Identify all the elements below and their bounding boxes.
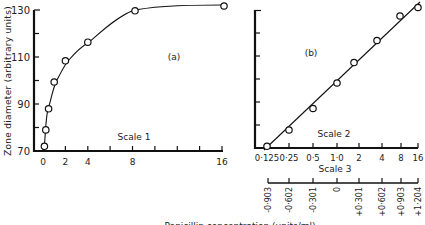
a-x-tick-16: 16 <box>216 157 228 167</box>
a-fit-curve <box>44 5 222 151</box>
b-x-tick-8: 8 <box>398 153 403 163</box>
s3-tick-7: +0·903 <box>397 187 406 217</box>
b-x-tick-05: 0·5 <box>306 153 320 163</box>
scale2-label: Scale 2 <box>318 129 351 139</box>
s3-tick-1: -0·903 <box>264 187 273 213</box>
a-x-tick-0: 0 <box>40 157 46 167</box>
panel-a: 130 110 90 70 0 2 4 8 16 Zone diameter (… <box>3 3 228 167</box>
a-x-tick-8: 8 <box>130 157 136 167</box>
panel-b-label: (b) <box>305 48 318 58</box>
b-x-tick-025: 0·25 <box>280 153 299 163</box>
scale3-label: Scale 3 <box>319 164 352 174</box>
b-data-points <box>264 4 421 149</box>
scale1-label: Scale 1 <box>118 132 151 142</box>
s3-tick-6: +0·602 <box>378 187 387 217</box>
b-x-tick-0125: 0·125 <box>255 153 279 163</box>
panel-a-label: (a) <box>168 52 181 62</box>
b-x-tick-4: 4 <box>379 153 384 163</box>
a-y-tick-110: 110 <box>11 52 30 63</box>
s3-tick-3: -0·301 <box>309 187 318 213</box>
scale3-ticks <box>268 178 418 183</box>
figure: 130 110 90 70 0 2 4 8 16 Zone diameter (… <box>0 0 425 225</box>
s3-tick-5: +0·301 <box>355 187 364 217</box>
y-axis-label: Zone diameter (arbitrary units) <box>3 6 13 156</box>
a-x-tick-2: 2 <box>63 157 69 167</box>
a-x-tick-4: 4 <box>85 157 91 167</box>
a-y-tick-130: 130 <box>11 5 30 16</box>
a-data-points <box>41 3 227 150</box>
b-x-tick-16: 16 <box>413 153 424 163</box>
s3-tick-8: +1·204 <box>414 187 423 217</box>
b-x-tick-2: 2 <box>356 153 361 163</box>
x-axis-label: Penicillin concentration (units/ml) <box>164 221 315 225</box>
a-y-tick-90: 90 <box>17 99 30 110</box>
b-x-tick-1: 1·0 <box>330 153 344 163</box>
a-y-tick-70: 70 <box>17 146 30 157</box>
s3-tick-2: -0·602 <box>285 187 294 213</box>
s3-tick-4: 0 <box>333 187 342 192</box>
panel-b: 0·125 0·25 0·5 1·0 2 4 8 16 (b) Scale 2 … <box>254 2 423 217</box>
